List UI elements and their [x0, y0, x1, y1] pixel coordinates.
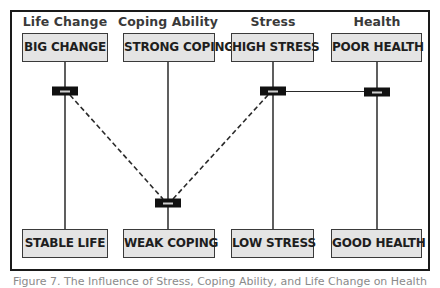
figure-caption: Figure 7. The Influence of Stress, Copin… — [0, 275, 440, 288]
column-label-coping-ability: Coping Ability — [118, 13, 218, 31]
box-good-health: GOOD HEALTH — [331, 229, 422, 258]
box-low-stress: LOW STRESS — [231, 229, 314, 258]
box-stable-life: STABLE LIFE — [22, 229, 108, 258]
dashed-link-coping-to-stress — [173, 95, 268, 199]
dashed-link-life-to-coping — [70, 95, 163, 199]
box-weak-coping: WEAK COPING — [123, 229, 215, 258]
marker-life-change — [52, 87, 78, 96]
column-label-health: Health — [353, 13, 400, 31]
marker-coping-ability — [155, 199, 181, 208]
box-high-stress: HIGH STRESS — [231, 33, 314, 62]
column-label-stress: Stress — [250, 13, 295, 31]
marker-stress — [260, 87, 286, 96]
column-label-life-change: Life Change — [23, 13, 107, 31]
marker-health — [364, 88, 390, 97]
box-strong-coping: STRONG COPING — [123, 33, 215, 62]
box-big-change: BIG CHANGE — [22, 33, 108, 62]
box-poor-health: POOR HEALTH — [331, 33, 422, 62]
